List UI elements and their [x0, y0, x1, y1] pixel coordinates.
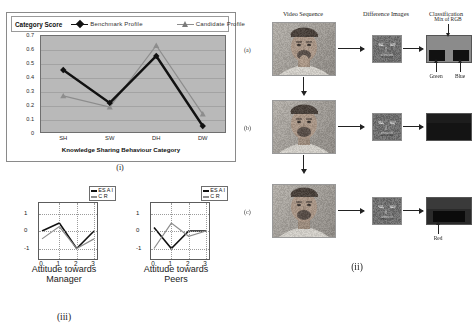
mini-chart-manager: ES A I C R Attitude towards Manager 10-1… [14, 186, 114, 282]
chart-y-tick-label: 0.6 [26, 46, 34, 52]
figure-iii-caption: (iii) [14, 312, 114, 322]
row-label-a: (a) [244, 47, 251, 53]
mini-x-tick-label: 0 [39, 260, 43, 267]
video-frame-a [272, 22, 336, 76]
chart-x-tick-label: SW [105, 135, 114, 141]
label-green: Green [429, 73, 442, 79]
difference-image-b [372, 113, 402, 141]
arrow-mix-of-rgb [448, 24, 449, 33]
video-frame-b [272, 100, 336, 154]
mini-x-tick-label: 2 [186, 260, 190, 267]
chart-series-svg [40, 35, 226, 133]
chart-legend: Category Score Benchmark Profile Candida… [11, 16, 229, 32]
difference-image-c [372, 197, 402, 225]
arrow-green [436, 63, 437, 72]
mini-legend-label-cr: C R [98, 194, 107, 200]
arrow-c-to-diff [338, 210, 364, 211]
label-mix-of-rgb: Mix of RGB [434, 16, 461, 22]
chart-x-tick-label: DH [152, 135, 160, 141]
figure-i-line-chart: Category Score Benchmark Profile Candida… [6, 12, 236, 162]
candidate-line-swatch [177, 24, 194, 25]
mini-x-tick-label: 1 [57, 260, 61, 267]
legend-item-candidate: Candidate Profile [177, 21, 245, 27]
chart-y-tick-label: 0.5 [26, 60, 34, 66]
caption-line-2: Manager [46, 274, 82, 284]
mini-chart-manager-legend: ES A I C R [89, 186, 116, 201]
arrow-diff-a-to-class [403, 48, 423, 49]
arrow-diff-c-to-class [403, 210, 423, 211]
label-blue: Blue [455, 73, 465, 79]
figure-ii-pipeline: Video Sequence Difference Images Classif… [238, 4, 476, 294]
arrow-a-to-b [303, 77, 304, 92]
mini-y-tick-label: -1 [136, 245, 226, 251]
diamond-marker-icon [76, 20, 84, 28]
cr-color-swatch [91, 196, 97, 198]
caption-line-2: Peers [164, 274, 188, 284]
chart-x-tick-label: SH [59, 135, 67, 141]
column-header-video-sequence: Video Sequence [283, 10, 323, 17]
arrow-b-to-c [303, 155, 304, 170]
esai-color-swatch [91, 190, 97, 192]
mini-y-tick-label: -1 [24, 245, 114, 251]
mini-chart-manager-caption: Attitude towards Manager [8, 264, 120, 285]
chart-y-tick-label: 0.3 [26, 88, 34, 94]
chart-y-axis: 00.10.20.30.40.50.60.7 [7, 35, 37, 133]
row-label-c: (c) [244, 209, 251, 215]
arrow-blue [460, 63, 461, 72]
figure-ii-caption: (ii) [238, 262, 476, 272]
mini-x-tick-label: 1 [169, 260, 173, 267]
legend-label-benchmark: Benchmark Profile [90, 21, 142, 27]
label-red: Red [434, 235, 443, 241]
benchmark-line-swatch [71, 24, 88, 25]
mini-y-tick-label: 0 [24, 227, 114, 233]
chart-y-tick-label: 0.1 [26, 116, 34, 122]
chart-y-tick-label: 0.2 [26, 102, 34, 108]
triangle-marker-icon [182, 21, 188, 27]
mini-y-tick-label: 1 [136, 210, 226, 216]
mini-x-tick-label: 3 [203, 260, 207, 267]
mini-legend-item-cr: C R [203, 194, 225, 200]
mini-x-tick-label: 2 [74, 260, 78, 267]
mini-legend-label-cr: C R [210, 194, 219, 200]
chart-x-tick-label: DW [198, 135, 208, 141]
classification-image-c [426, 197, 472, 225]
mini-y-tick-label: 0 [136, 227, 226, 233]
row-label-b: (b) [244, 125, 251, 131]
arrow-a-to-diff [338, 48, 364, 49]
mini-chart-peers: ES A I C R Attitude towards Peers 10-101… [126, 186, 226, 282]
arrow-b-to-diff [338, 126, 364, 127]
arrow-red [438, 225, 439, 234]
mini-x-tick-label: 3 [91, 260, 95, 267]
mini-x-tick-label: 0 [151, 260, 155, 267]
chart-y-tick-label: 0 [31, 130, 34, 136]
figure-i-caption: (i) [0, 163, 240, 172]
arrow-diff-b-to-class [403, 126, 423, 127]
mini-chart-peers-caption: Attitude towards Peers [120, 264, 232, 285]
column-header-difference-images: Difference Images [363, 10, 409, 17]
chart-plot-wrapper [40, 35, 226, 133]
mini-chart-peers-legend: ES A I C R [201, 186, 228, 201]
chart-x-axis-label: Knowledge Sharing Behaviour Category [7, 146, 235, 153]
mini-y-tick-label: 1 [24, 210, 114, 216]
classification-image-b [426, 113, 472, 141]
video-frame-c [272, 184, 336, 238]
chart-y-tick-label: 0.4 [26, 74, 34, 80]
legend-item-benchmark: Benchmark Profile [71, 21, 142, 27]
esai-color-swatch [203, 190, 209, 192]
chart-y-tick-label: 0.7 [26, 32, 34, 38]
difference-image-a [372, 35, 402, 63]
cr-color-swatch [203, 196, 209, 198]
chart-y-axis-title: Category Score [12, 21, 62, 28]
mini-legend-item-cr: C R [91, 194, 113, 200]
